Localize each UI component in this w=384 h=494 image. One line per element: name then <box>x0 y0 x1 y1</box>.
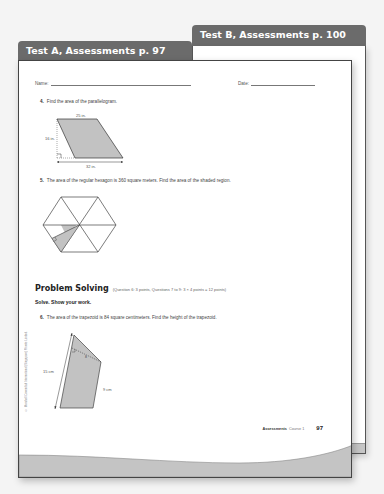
name-line <box>51 81 191 86</box>
instruction: Solve. Show your work. <box>35 299 91 305</box>
date-field: Date: <box>238 81 315 86</box>
height-label: 16 in. <box>45 136 55 141</box>
question-text: Find the area of the parallelogram. <box>47 99 117 104</box>
section-title: Problem Solving <box>35 284 109 293</box>
parallelogram-figure: 25 in. 16 in. 32 in. <box>45 111 145 173</box>
bottom-side-label: 32 in. <box>86 164 96 169</box>
footer-course: Course 1 <box>289 427 304 431</box>
top-side-label: 25 in. <box>76 113 86 118</box>
name-field: Name: <box>35 81 191 86</box>
problem-solving-heading: Problem Solving (Question 6: 3 points, Q… <box>35 284 226 293</box>
height-variable-label: h <box>85 354 87 359</box>
question-number: 5. <box>40 178 44 183</box>
tab-test-a: Test A, Assessments p. 97 <box>18 41 192 61</box>
question-5: 5.The area of the regular hexagon is 360… <box>40 178 280 184</box>
points-note: (Question 6: 3 points, Questions 7 to 9:… <box>113 287 226 292</box>
tab-test-b: Test B, Assessments p. 100 <box>192 25 366 46</box>
question-text: The area of the trapezoid is 84 square c… <box>47 315 217 320</box>
date-line <box>251 81 315 86</box>
date-label: Date: <box>238 81 249 86</box>
right-side-label: 9 cm <box>103 387 112 392</box>
question-text: The area of the regular hexagon is 360 s… <box>47 178 231 183</box>
page-footer: Assessments Course 1 97 <box>262 425 323 431</box>
left-side-label: 15 cm <box>43 369 55 374</box>
question-4: 4.Find the area of the parallelogram. <box>40 99 117 105</box>
question-6: 6.The area of the trapezoid is 84 square… <box>40 315 270 321</box>
copyright-notice: © Marshall Cavendish International (Sing… <box>24 331 28 412</box>
name-label: Name: <box>35 81 49 86</box>
page-curl <box>19 433 352 477</box>
question-number: 4. <box>40 99 44 104</box>
question-number: 6. <box>40 315 44 320</box>
page-test-a: Name: Date: 4.Find the area of the paral… <box>18 60 352 478</box>
page-number: 97 <box>316 425 323 431</box>
hexagon-figure <box>39 194 129 274</box>
trapezoid-figure: 15 cm 9 cm h <box>41 329 121 419</box>
footer-label: Assessments <box>262 427 286 431</box>
